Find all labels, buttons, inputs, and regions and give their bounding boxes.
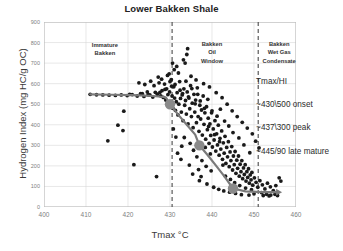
region-label: BakkenOilWindow: [201, 40, 223, 65]
region-label-line: Immature: [92, 41, 118, 49]
region-label-line: Window: [201, 57, 223, 65]
x-tick-label: 440: [197, 211, 227, 218]
region-label-line: Bakken: [92, 49, 118, 57]
y-tick-label: 200: [14, 163, 40, 169]
y-tick-label: 100: [14, 183, 40, 189]
x-tick-label: 460: [281, 211, 311, 218]
region-label: BakkenWet GasCondensate: [263, 40, 296, 65]
region-label-line: Condensate: [263, 57, 296, 65]
chart-figure: Lower Bakken Shale Hydrogen Index (mg HC…: [0, 0, 343, 251]
y-axis-label: Hydrogen Index (mg HC/g OC): [17, 34, 28, 194]
region-label-line: Wet Gas: [263, 48, 296, 56]
y-tick-label: 300: [14, 142, 40, 148]
x-tick-label: 410: [71, 211, 101, 218]
x-tick-label: 430: [155, 211, 185, 218]
scatter-plot-svg: [44, 22, 296, 207]
region-label-line: Bakken: [201, 40, 223, 48]
region-label-line: Oil: [201, 48, 223, 56]
x-tick-label: 400: [29, 211, 59, 218]
annotation-text: ~430\500 onset: [256, 100, 313, 109]
y-tick-label: 600: [14, 81, 40, 87]
x-tick-label: 450: [239, 211, 269, 218]
y-tick-label: 900: [14, 19, 40, 25]
plot-area: ImmatureBakkenBakkenOilWindowBakkenWet G…: [44, 22, 296, 207]
annotation-text: ~445/90 late mature: [256, 147, 329, 156]
x-tick-label: 420: [113, 211, 143, 218]
y-tick-label: 700: [14, 60, 40, 66]
annotation-text: ~437\300 peak: [256, 123, 310, 132]
y-tick-label: 800: [14, 40, 40, 46]
region-label: ImmatureBakken: [92, 41, 118, 58]
y-tick-label: 400: [14, 122, 40, 128]
y-tick-label: 500: [14, 101, 40, 107]
annotation-text: Tmax/HI: [256, 77, 287, 86]
y-tick-label: 0: [14, 204, 40, 210]
region-label-line: Bakken: [263, 40, 296, 48]
chart-title: Lower Bakken Shale: [0, 3, 343, 14]
x-axis-label: Tmax °C: [44, 229, 296, 240]
